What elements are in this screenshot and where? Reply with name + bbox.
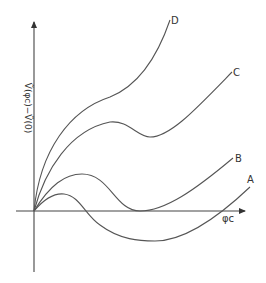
curve-d-label: D xyxy=(171,15,179,26)
curve-c-label: C xyxy=(233,67,240,78)
x-axis-label: φc xyxy=(222,213,234,224)
potential-diagram: D C B A φc Ṽ(φc)−Ṽ(0) xyxy=(0,0,266,283)
curve-a-label: A xyxy=(247,174,254,185)
curve-a xyxy=(34,187,250,241)
y-axis-label: Ṽ(φc)−Ṽ(0) xyxy=(23,83,34,134)
curve-b-label: B xyxy=(235,153,242,164)
curve-c xyxy=(34,72,232,211)
curve-b xyxy=(34,158,233,211)
